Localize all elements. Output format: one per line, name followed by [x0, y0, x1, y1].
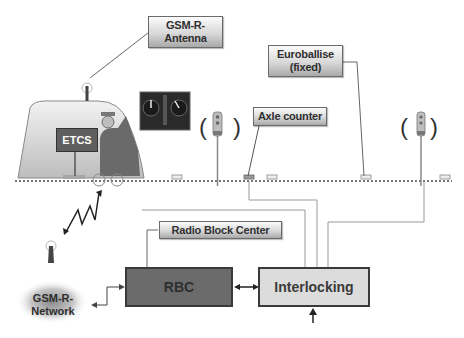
train-antenna-icon — [82, 83, 92, 101]
balises — [172, 175, 450, 179]
gsmr-mast-icon — [46, 241, 56, 263]
etcs-sign: ETCS — [56, 128, 98, 152]
svg-text:(: ( — [199, 113, 207, 140]
axle-counter-label: Axle counter — [253, 107, 327, 126]
svg-text:): ) — [430, 113, 438, 140]
gsmr-network-label: GSM-R- Network — [22, 292, 84, 318]
gsmr-antenna-label-line2: Antenna — [164, 32, 207, 45]
gsmr-network-label-line1: GSM-R- — [22, 292, 84, 305]
svg-text:): ) — [233, 113, 241, 140]
radio-link-icon — [63, 190, 102, 235]
radio-block-center-label: Radio Block Center — [159, 221, 282, 239]
euroballise-label-line2: (fixed) — [290, 61, 322, 74]
gsmr-network-label-line2: Network — [22, 305, 84, 318]
axle-counter-label-text: Axle counter — [258, 110, 322, 123]
interlocking-block: Interlocking — [258, 267, 370, 307]
interlocking-block-label: Interlocking — [274, 279, 353, 295]
euroballise-label: Euroballise (fixed) — [268, 45, 343, 77]
signal-2-icon: ( ) — [400, 112, 438, 186]
svg-text:(: ( — [400, 113, 408, 140]
radio-block-center-label-text: Radio Block Center — [172, 224, 270, 237]
euroballise-label-line1: Euroballise — [277, 48, 334, 61]
gsmr-antenna-label: GSM-R- Antenna — [148, 16, 223, 48]
rbc-block-label: RBC — [164, 279, 194, 295]
rbc-block: RBC — [125, 267, 233, 307]
etcs-sign-label: ETCS — [62, 134, 91, 146]
gsmr-antenna-label-line1: GSM-R- — [166, 19, 205, 32]
dmi-panel-icon — [140, 92, 190, 130]
signal-1-icon: ( ) — [199, 112, 241, 186]
